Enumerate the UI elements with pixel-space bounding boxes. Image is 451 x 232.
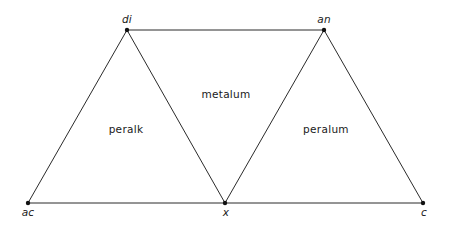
vertex-label-c: c (421, 206, 427, 218)
edge-group (28, 30, 423, 203)
edge-an-c (324, 30, 423, 203)
ternary-field-diagram: di an ac x c peralk metalum peralum (0, 0, 451, 232)
region-label-peralum: peralum (303, 123, 349, 135)
region-label-metalum: metalum (201, 88, 250, 100)
vertex-dot-c (421, 201, 425, 205)
vertex-dot-di (125, 28, 129, 32)
vertex-dot-group (26, 28, 425, 205)
diagram-canvas: di an ac x c peralk metalum peralum (0, 0, 451, 232)
vertex-label-x: x (222, 206, 230, 218)
vertex-label-group: di an ac x c (22, 13, 427, 218)
region-label-peralk: peralk (109, 123, 144, 135)
vertex-label-an: an (317, 13, 331, 25)
edge-di-x (127, 30, 225, 203)
region-label-group: peralk metalum peralum (109, 88, 349, 135)
vertex-label-di: di (122, 13, 132, 25)
vertex-label-ac: ac (22, 206, 35, 218)
vertex-dot-ac (26, 201, 30, 205)
vertex-dot-x (223, 201, 227, 205)
vertex-dot-an (322, 28, 326, 32)
edge-x-an (225, 30, 324, 203)
edge-ac-di (28, 30, 127, 203)
